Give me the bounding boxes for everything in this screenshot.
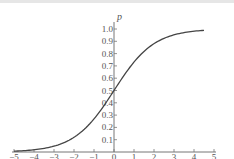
x-tick-label: 2: [152, 152, 157, 159]
x-tick-label: 0: [112, 152, 117, 159]
x-tick-label: −2: [69, 152, 79, 159]
y-tick-label: 0.3: [102, 110, 114, 120]
x-tick-label: 1: [132, 152, 137, 159]
sigmoid-chart: −5−4−3−2−10123450.10.20.30.40.50.60.70.8…: [0, 0, 234, 159]
x-tick-label: 3: [172, 152, 177, 159]
x-tick-label: 4: [192, 152, 197, 159]
y-tick-label: 0.1: [102, 135, 113, 145]
x-tick-label: 5: [212, 152, 217, 159]
y-tick-label: 0.9: [102, 36, 114, 46]
x-tick-label: −5: [9, 152, 19, 159]
y-tick-label: 0.7: [102, 61, 114, 71]
x-tick-label: −3: [49, 152, 59, 159]
x-tick-label: −4: [29, 152, 39, 159]
x-tick-label: −1: [89, 152, 99, 159]
y-tick-label: 0.2: [102, 122, 113, 132]
y-tick-label: 0.6: [102, 73, 114, 83]
y-tick-label: 1.0: [102, 24, 114, 34]
y-tick-label: 0.8: [102, 49, 114, 59]
y-axis-label: p: [116, 11, 122, 22]
